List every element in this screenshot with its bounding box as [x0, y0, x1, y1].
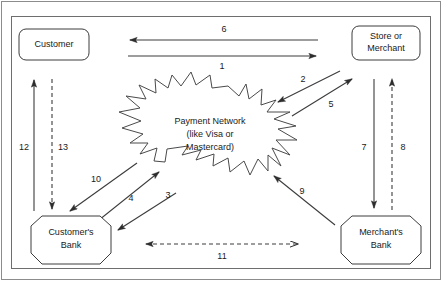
- connector-10-label: 10: [91, 174, 101, 184]
- connector-3-label: 3: [165, 190, 170, 200]
- connector-13: 13: [52, 79, 68, 209]
- starburst-label-line3: Mastercard): [186, 142, 234, 152]
- connector-2-label: 2: [300, 74, 305, 84]
- node-store-merchant[interactable]: Store or Merchant: [352, 26, 420, 60]
- connector-5-label: 5: [328, 99, 333, 109]
- customers-bank-label-line1: Customer's: [48, 227, 94, 237]
- connector-4-label: 4: [128, 193, 133, 203]
- connector-8: 8: [392, 79, 406, 210]
- merchants-bank-label-line2: Bank: [371, 240, 392, 250]
- starburst-label-line2: (like Visa or: [187, 129, 234, 139]
- connector-12-label: 12: [19, 142, 29, 152]
- connector-1-label: 1: [219, 61, 224, 71]
- connector-5-line: [292, 79, 352, 116]
- node-payment-network[interactable]: Payment Network (like Visa or Mastercard…: [119, 72, 297, 175]
- node-merchants-bank[interactable]: Merchant's Bank: [341, 216, 421, 264]
- diagram-canvas: 6 1 12 13 7 8 11: [0, 0, 442, 281]
- connector-11: 11: [146, 244, 298, 261]
- connector-9-label: 9: [299, 186, 304, 196]
- store-merchant-label-line2: Merchant: [367, 43, 405, 53]
- connector-10: 10: [70, 163, 137, 211]
- connector-10-line: [70, 163, 137, 211]
- payment-flow-diagram: 6 1 12 13 7 8 11: [0, 0, 442, 281]
- store-merchant-label-line1: Store or: [370, 31, 402, 41]
- connector-2: 2: [278, 71, 340, 102]
- starburst-label-line1: Payment Network: [174, 116, 246, 126]
- connector-12: 12: [19, 80, 34, 211]
- connector-7: 7: [361, 79, 374, 208]
- connector-5: 5: [292, 79, 352, 116]
- connector-6-label: 6: [221, 24, 226, 34]
- connector-9-line: [274, 176, 335, 225]
- connector-9: 9: [274, 176, 335, 225]
- merchants-bank-label-line1: Merchant's: [359, 227, 403, 237]
- connector-8-label: 8: [400, 142, 405, 152]
- node-customers-bank[interactable]: Customer's Bank: [31, 216, 111, 264]
- connector-7-label: 7: [361, 142, 366, 152]
- customer-label: Customer: [34, 39, 73, 49]
- customers-bank-label-line2: Bank: [61, 240, 82, 250]
- connector-6: 6: [130, 24, 318, 40]
- connector-11-label: 11: [217, 251, 226, 261]
- connector-3: 3: [118, 190, 176, 230]
- connector-2-line: [278, 71, 340, 102]
- node-customer[interactable]: Customer: [19, 29, 89, 60]
- connector-1: 1: [128, 56, 316, 71]
- connector-13-label: 13: [58, 142, 68, 152]
- connector-4: 4: [99, 172, 159, 220]
